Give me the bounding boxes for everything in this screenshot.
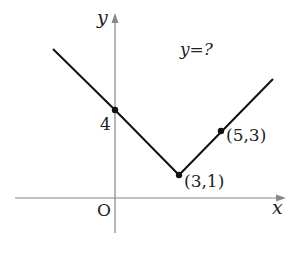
graph-canvas: y x O 4 (3,1) (5,3) y=? xyxy=(0,0,302,254)
origin-label: O xyxy=(97,202,111,219)
y-axis-arrow-icon xyxy=(112,13,119,23)
question-title: y=? xyxy=(180,41,213,58)
point-5-3 xyxy=(218,128,224,134)
point-label-5-3: (5,3) xyxy=(226,127,266,144)
v-graph-line xyxy=(53,49,273,175)
x-axis-label: x xyxy=(272,198,283,217)
y-axis-label: y xyxy=(97,8,108,27)
y-tick-label-4: 4 xyxy=(100,116,111,133)
point-0-4 xyxy=(112,107,118,113)
point-3-1 xyxy=(176,172,182,178)
point-label-3-1: (3,1) xyxy=(184,173,224,190)
